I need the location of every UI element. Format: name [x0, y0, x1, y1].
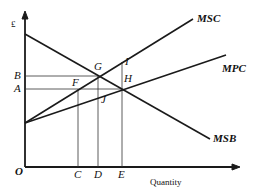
origin-label: O: [15, 166, 23, 177]
msc-curve: [25, 19, 193, 123]
quantity-c-label: C: [74, 169, 81, 180]
price-b-label: B: [14, 70, 21, 81]
point-j-label: J: [101, 94, 106, 105]
point-i-label: I: [125, 56, 129, 67]
point-g-label: G: [94, 61, 102, 72]
point-h-label: H: [124, 73, 132, 84]
price-a-label: A: [14, 83, 21, 94]
y-axis-label: £: [11, 20, 16, 29]
mpc-label: MPC: [222, 63, 246, 74]
point-f-label: F: [72, 77, 79, 88]
msc-label: MSC: [197, 13, 220, 24]
msb-curve: [25, 34, 210, 139]
axes: [22, 11, 240, 170]
quantity-e-label: E: [118, 169, 125, 180]
msb-label: MSB: [213, 133, 236, 144]
x-axis-label: Quantity: [150, 178, 182, 187]
quantity-d-label: D: [94, 169, 102, 180]
y-axis-arrow-icon: [22, 11, 28, 19]
externality-diagram: [0, 0, 260, 193]
x-axis-arrow-icon: [232, 164, 240, 170]
